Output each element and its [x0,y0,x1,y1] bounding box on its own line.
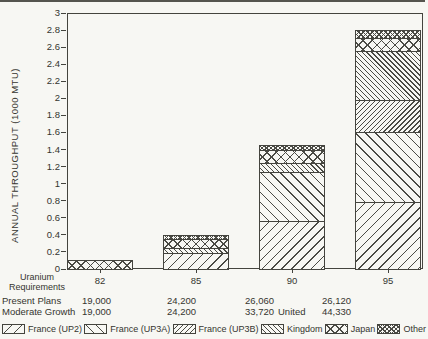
page-top-rule [0,0,425,2]
x-tick-label: 90 [272,275,312,286]
bar-segment [356,51,420,100]
y-tick-label: 2.2 [20,76,60,86]
x-tick-label: 82 [80,275,120,286]
legend-swatch-diag-forward-dense [173,324,196,334]
legend-swatch-crosshatch-dense [377,324,400,334]
bar-segment [356,132,420,202]
y-tick-mark [61,132,66,133]
y-tick-label: 2 [20,93,60,103]
y-tick-label: 0.6 [20,213,60,223]
legend-item: France (UP2) [2,324,82,334]
y-tick-mark [61,200,66,201]
y-tick-label: 2.6 [20,42,60,52]
y-tick-mark [61,149,66,150]
x-tick-mark [292,269,293,273]
legend-swatch-crosshatch-sparse [325,324,348,334]
y-tick-label: 3 [20,8,60,18]
legend: France (UP2)France (UP3A)France (UP3B)Ki… [2,322,426,336]
y-tick-label: 2.8 [20,25,60,35]
stacked-bar [163,235,229,270]
legend-item: France (UP3A) [84,324,170,334]
y-tick-label: 0.8 [20,196,60,206]
y-tick-mark [61,269,66,270]
y-tick-mark [61,30,66,31]
y-tick-mark [61,64,66,65]
bar-segment [356,100,420,132]
legend-item: Japan [325,324,376,334]
x-tick-label: 85 [176,275,216,286]
y-tick-mark [61,234,66,235]
y-tick-mark [61,166,66,167]
x-tick-mark [388,269,389,273]
stacked-bar [355,30,421,270]
bar-segment [356,38,420,51]
y-tick-mark [61,47,66,48]
row-label-present-plans: Present Plans [2,295,61,306]
legend-label: France (UP3B) [199,324,259,334]
y-tick-mark [61,115,66,116]
x-tick-mark [100,269,101,273]
table-cell: 24,200 [167,295,217,306]
x-tick-label: 95 [368,275,408,286]
y-tick-label: 1.8 [20,110,60,120]
legend-item: Other [377,324,426,334]
y-tick-label: 1 [20,179,60,189]
legend-swatch-diag-back-dense [261,324,284,334]
bar-segment [164,253,228,270]
y-tick-label: 1.4 [20,145,60,155]
y-tick-label: 1.6 [20,127,60,137]
table-cell: 19,000 [82,295,132,306]
uranium-header-line2: Requirements [4,282,70,292]
y-tick-label: 0.2 [20,247,60,257]
legend-item: France (UP3B) [173,324,259,334]
y-tick-mark [61,13,66,14]
y-tick-mark [61,183,66,184]
legend-swatch-diag-back-sparse [84,324,107,334]
y-tick-mark [61,251,66,252]
y-tick-label: 1.2 [20,162,60,172]
bar-segment [260,150,324,163]
bar-segment [164,239,228,248]
x-tick-mark [196,269,197,273]
bar-segment [356,31,420,38]
table-cell: 19,000 [82,306,132,317]
table-cell: 44,330 [322,306,372,317]
table-cell: 24,200 [167,306,217,317]
legend-label: France (UP3A) [110,324,170,334]
bar-segment [260,172,324,221]
legend-label: Other [403,324,426,334]
legend-label: Japan [351,324,376,334]
figure-page: ANNUAL THROUGHPUT (1000 MTU) 00.20.40.60… [0,0,428,339]
bar-segment [260,221,324,270]
row-label-moderate-growth: Moderate Growth [2,306,75,317]
legend-item: Kingdom [261,324,323,334]
uranium-header-line1: Uranium [4,272,70,282]
table-cell: 26,120 [322,295,372,306]
legend-swatch-diag-forward-sparse [2,324,25,334]
stacked-bar [259,145,325,270]
y-tick-mark [61,81,66,82]
y-tick-label: 2.4 [20,59,60,69]
bar-segment [260,163,324,172]
bar-segment [356,202,420,270]
legend-united-overflow-label: United [278,306,305,317]
uranium-requirements-header: Uranium Requirements [4,272,70,292]
legend-label: Kingdom [287,324,323,334]
table-cell: 26,060 [245,295,295,306]
y-tick-mark [61,98,66,99]
y-tick-mark [61,217,66,218]
legend-label: France (UP2) [28,324,82,334]
y-tick-label: 0.4 [20,230,60,240]
